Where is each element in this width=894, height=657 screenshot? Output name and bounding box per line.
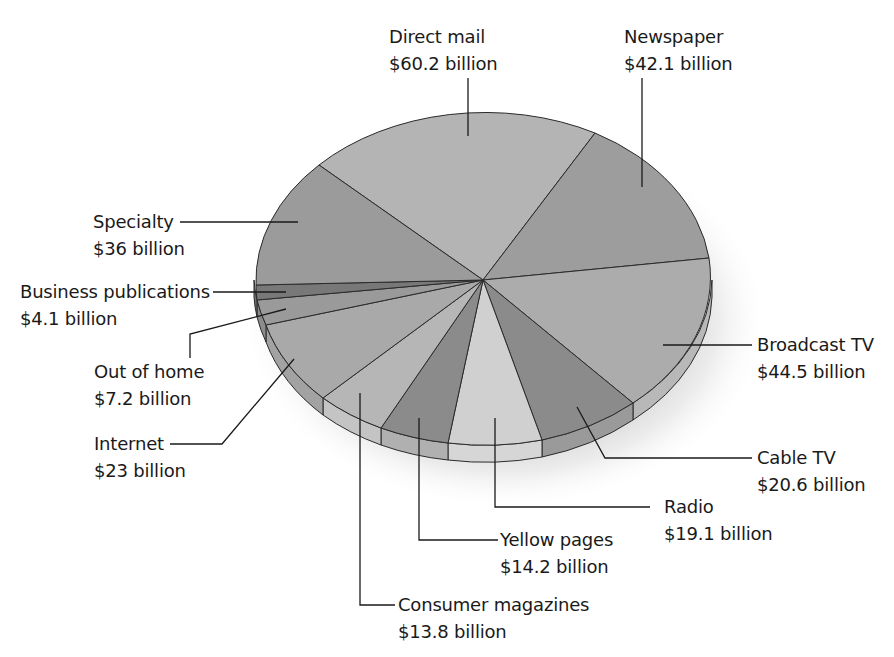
label-business-publications-value: $4.1 billion	[20, 308, 117, 329]
label-specialty-name: Specialty	[93, 211, 174, 232]
label-consumer-magazines-name: Consumer magazines	[398, 594, 589, 615]
label-business-publications-name: Business publications	[20, 281, 210, 302]
label-newspaper-value: $42.1 billion	[624, 53, 733, 74]
pie-chart: Direct mail $60.2 billion Newspaper $42.…	[0, 0, 894, 657]
label-specialty-value: $36 billion	[93, 238, 185, 259]
label-out-of-home-name: Out of home	[94, 361, 204, 382]
label-newspaper-name: Newspaper	[624, 26, 724, 47]
label-radio-name: Radio	[664, 496, 714, 517]
label-broadcast-tv-value: $44.5 billion	[757, 361, 866, 382]
label-direct-mail-name: Direct mail	[389, 26, 485, 47]
label-radio-value: $19.1 billion	[664, 523, 773, 544]
label-yellow-pages-name: Yellow pages	[499, 529, 613, 550]
label-out-of-home-value: $7.2 billion	[94, 388, 191, 409]
label-cable-tv-value: $20.6 billion	[757, 474, 866, 495]
label-cable-tv-name: Cable TV	[757, 447, 836, 468]
label-internet-value: $23 billion	[94, 460, 186, 481]
label-direct-mail-value: $60.2 billion	[389, 53, 498, 74]
label-broadcast-tv-name: Broadcast TV	[757, 334, 875, 355]
label-internet-name: Internet	[94, 433, 164, 454]
label-consumer-magazines-value: $13.8 billion	[398, 621, 507, 642]
label-yellow-pages-value: $14.2 billion	[500, 556, 609, 577]
